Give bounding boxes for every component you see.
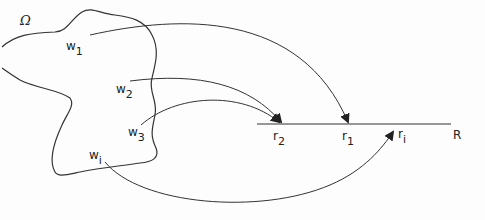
real-line-label: R bbox=[453, 129, 461, 141]
w1-label: w1 bbox=[66, 40, 83, 57]
random-variable-diagram: Ω w1 w2 w3 wi r2 r1 ri R bbox=[0, 0, 485, 220]
ri-label: ri bbox=[398, 128, 406, 145]
diagram-drawing bbox=[0, 0, 485, 220]
w2-label: w2 bbox=[116, 83, 133, 100]
mapping-arrow-w1-r1 bbox=[90, 24, 348, 122]
w3-label: w3 bbox=[128, 126, 145, 143]
r2-label: r2 bbox=[273, 130, 285, 147]
mapping-arrow-w3-r2 bbox=[141, 100, 279, 125]
omega-set-boundary bbox=[2, 10, 157, 175]
wi-label: wi bbox=[89, 149, 102, 166]
r1-label: r1 bbox=[342, 130, 354, 147]
omega-label: Ω bbox=[20, 14, 31, 27]
